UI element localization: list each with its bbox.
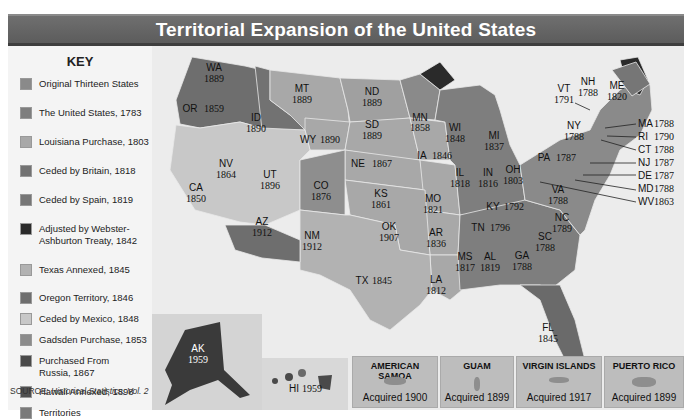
svg-text:1791: 1791 bbox=[554, 94, 574, 105]
svg-text:1837: 1837 bbox=[484, 141, 504, 152]
svg-text:DE: DE bbox=[638, 170, 652, 181]
svg-text:1790: 1790 bbox=[654, 131, 674, 142]
svg-text:1788: 1788 bbox=[654, 183, 674, 194]
svg-text:MT: MT bbox=[295, 83, 309, 94]
svg-text:1788: 1788 bbox=[535, 242, 555, 253]
label-or: OR bbox=[183, 103, 198, 114]
svg-text:MD: MD bbox=[638, 183, 654, 194]
svg-text:1845: 1845 bbox=[538, 333, 558, 344]
svg-text:1819: 1819 bbox=[480, 262, 500, 273]
svg-text:KS: KS bbox=[374, 188, 388, 199]
svg-text:1820: 1820 bbox=[607, 91, 627, 102]
svg-text:CA: CA bbox=[189, 182, 203, 193]
svg-text:1787: 1787 bbox=[654, 170, 674, 181]
svg-text:1818: 1818 bbox=[450, 178, 470, 189]
svg-text:1788: 1788 bbox=[548, 195, 568, 206]
svg-text:1787: 1787 bbox=[654, 157, 674, 168]
svg-text:1890: 1890 bbox=[320, 134, 340, 145]
svg-text:LA: LA bbox=[430, 274, 443, 285]
virgin-islands-shape bbox=[549, 377, 569, 383]
svg-text:1788: 1788 bbox=[654, 118, 674, 129]
territory-virgin-islands: VIRGIN ISLANDS Acquired 1917 bbox=[516, 356, 602, 408]
svg-text:WV: WV bbox=[638, 196, 654, 207]
svg-text:PA: PA bbox=[538, 152, 551, 163]
svg-text:AZ: AZ bbox=[256, 216, 269, 227]
svg-text:1788: 1788 bbox=[654, 144, 674, 155]
svg-text:1859: 1859 bbox=[204, 103, 224, 114]
svg-text:1812: 1812 bbox=[426, 285, 446, 296]
svg-text:1861: 1861 bbox=[371, 199, 391, 210]
svg-text:1876: 1876 bbox=[311, 191, 331, 202]
svg-text:1788: 1788 bbox=[564, 131, 584, 142]
svg-text:1846: 1846 bbox=[432, 150, 452, 161]
svg-text:NE: NE bbox=[351, 158, 365, 169]
svg-text:WY: WY bbox=[300, 134, 316, 145]
svg-text:CT: CT bbox=[638, 144, 651, 155]
puerto-rico-shape bbox=[632, 377, 656, 387]
svg-text:1863: 1863 bbox=[654, 196, 674, 207]
svg-text:CO: CO bbox=[314, 180, 329, 191]
guam-shape bbox=[474, 377, 480, 391]
svg-text:1788: 1788 bbox=[512, 261, 532, 272]
svg-text:NH: NH bbox=[581, 76, 595, 87]
svg-text:SC: SC bbox=[538, 231, 552, 242]
svg-text:1867: 1867 bbox=[372, 158, 392, 169]
svg-text:TN: TN bbox=[471, 222, 484, 233]
svg-text:FL: FL bbox=[542, 322, 554, 333]
svg-text:1889: 1889 bbox=[292, 94, 312, 105]
svg-text:ME: ME bbox=[610, 80, 625, 91]
svg-text:TX: TX bbox=[356, 275, 369, 286]
svg-text:AL: AL bbox=[484, 251, 497, 262]
svg-text:1889: 1889 bbox=[362, 130, 382, 141]
svg-text:IA: IA bbox=[417, 150, 427, 161]
svg-text:WI: WI bbox=[449, 122, 461, 133]
svg-text:NJ: NJ bbox=[638, 157, 650, 168]
territory-puerto-rico: PUERTO RICO Acquired 1899 bbox=[604, 356, 684, 408]
svg-text:GA: GA bbox=[515, 250, 530, 261]
svg-text:SD: SD bbox=[365, 119, 379, 130]
svg-text:1912: 1912 bbox=[252, 227, 272, 238]
svg-text:1817: 1817 bbox=[455, 262, 475, 273]
svg-text:1845: 1845 bbox=[372, 275, 392, 286]
svg-text:1890: 1890 bbox=[246, 123, 266, 134]
svg-text:1907: 1907 bbox=[379, 232, 399, 243]
label-wa: WA bbox=[206, 62, 222, 73]
svg-text:1836: 1836 bbox=[426, 238, 446, 249]
svg-text:1848: 1848 bbox=[445, 133, 465, 144]
svg-text:AK: AK bbox=[191, 343, 205, 354]
svg-text:1789: 1789 bbox=[552, 223, 572, 234]
svg-text:UT: UT bbox=[263, 169, 276, 180]
svg-text:1803: 1803 bbox=[503, 175, 523, 186]
svg-text:MA: MA bbox=[638, 118, 653, 129]
svg-text:ND: ND bbox=[365, 86, 379, 97]
svg-text:NM: NM bbox=[304, 230, 320, 241]
svg-text:1889: 1889 bbox=[362, 97, 382, 108]
svg-text:OH: OH bbox=[506, 164, 521, 175]
svg-text:MI: MI bbox=[488, 130, 499, 141]
svg-text:1959: 1959 bbox=[302, 383, 322, 394]
svg-text:1788: 1788 bbox=[578, 87, 598, 98]
svg-text:NC: NC bbox=[555, 212, 569, 223]
svg-text:1792: 1792 bbox=[504, 201, 524, 212]
svg-text:VA: VA bbox=[552, 184, 565, 195]
svg-text:1959: 1959 bbox=[188, 354, 208, 365]
svg-text:KY: KY bbox=[486, 201, 500, 212]
svg-text:1796: 1796 bbox=[490, 222, 510, 233]
svg-text:VT: VT bbox=[558, 83, 571, 94]
american-samoa-shape bbox=[384, 377, 406, 385]
svg-text:1821: 1821 bbox=[423, 204, 443, 215]
svg-text:1858: 1858 bbox=[410, 122, 430, 133]
svg-text:1896: 1896 bbox=[260, 180, 280, 191]
svg-text:RI: RI bbox=[638, 131, 648, 142]
territory-guam: GUAM Acquired 1899 bbox=[440, 356, 514, 408]
territory-american-samoa: AMERICAN SAMOA Acquired 1900 bbox=[352, 356, 438, 408]
svg-text:1787: 1787 bbox=[556, 152, 576, 163]
svg-text:IL: IL bbox=[456, 167, 465, 178]
svg-text:AR: AR bbox=[429, 227, 443, 238]
svg-text:MO: MO bbox=[425, 193, 441, 204]
svg-text:1864: 1864 bbox=[216, 169, 236, 180]
svg-text:1889: 1889 bbox=[204, 73, 224, 84]
svg-text:1850: 1850 bbox=[186, 193, 206, 204]
svg-text:IN: IN bbox=[483, 167, 493, 178]
